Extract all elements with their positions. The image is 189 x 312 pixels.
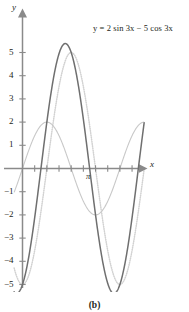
plot-area: 54321−1−2−3−4−5 y x π y = 2 sin 3x − 5 c… [0,0,189,292]
equation-label: y = 2 sin 3x − 5 cos 3x [93,24,173,33]
y-tick-label: −3 [4,233,14,242]
y-tick-label: 5 [9,48,14,57]
y-axis-label: y [12,3,16,12]
y-tick-label: 1 [9,140,14,149]
y-tick-label: −1 [4,187,14,196]
figure-caption: (b) [0,300,189,310]
graph-svg [0,0,189,292]
x-axis-label: x [150,160,154,169]
y-tick-label: −4 [4,256,14,265]
figure-container: 54321−1−2−3−4−5 y x π y = 2 sin 3x − 5 c… [0,0,189,312]
y-tick-label: −2 [4,210,14,219]
y-tick-label: −5 [4,280,14,289]
y-tick-label: 3 [9,94,14,103]
y-tick-label: 4 [9,71,14,80]
pi-tick-label: π [86,172,90,181]
y-tick-label: 2 [9,117,14,126]
